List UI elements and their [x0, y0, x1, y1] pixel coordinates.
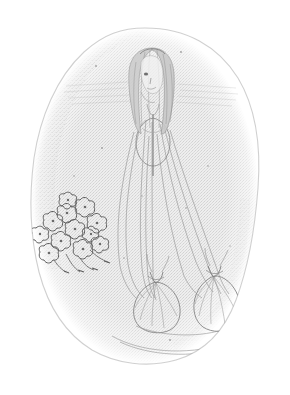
sketch-svg: [0, 0, 290, 395]
eye-mark: [144, 73, 148, 76]
sketch-canvas: Faint graphite sketch of a veiled standi…: [0, 0, 290, 395]
